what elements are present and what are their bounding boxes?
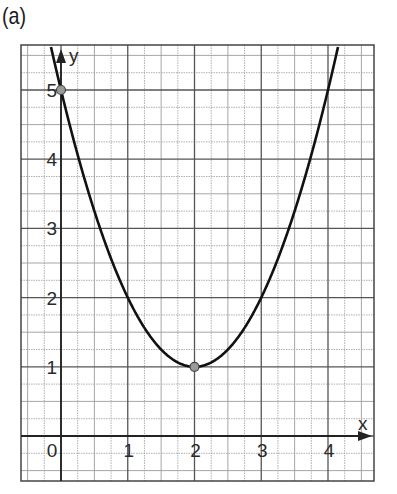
axes: [21, 49, 372, 481]
y-tick-label: 2: [46, 288, 57, 309]
marked-point: [190, 362, 199, 371]
x-tick-label: 4: [324, 440, 335, 461]
y-tick-label: 1: [46, 357, 57, 378]
x-tick-label: 3: [257, 440, 268, 461]
x-tick-label: 2: [190, 440, 201, 461]
marked-point: [57, 86, 66, 95]
tick-labels: 0123412345: [46, 80, 334, 461]
minor-grid: [21, 45, 374, 481]
chart-plot: 0123412345 x y: [0, 0, 397, 494]
y-tick-label: 5: [46, 80, 57, 101]
x-axis-label: x: [358, 413, 368, 434]
y-axis-arrow-icon: [56, 49, 66, 63]
y-tick-label: 4: [46, 149, 57, 170]
x-tick-label: 1: [123, 440, 134, 461]
x-tick-label: 0: [47, 440, 58, 461]
y-axis-label: y: [69, 45, 79, 66]
y-tick-label: 3: [46, 218, 57, 239]
